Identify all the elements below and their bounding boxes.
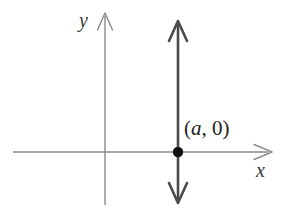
plotted-point-a-0 [173,147,183,157]
y-axis-label: y [79,10,88,30]
point-label-open-paren: ( [184,116,191,140]
x-axis-label: x [256,160,265,180]
point-label-rest: , 0) [202,116,230,140]
graph-canvas [0,0,292,213]
point-label-variable: a [191,116,202,140]
point-coordinate-label: (a, 0) [184,118,230,139]
coordinate-plane-figure: y x (a, 0) [0,0,292,213]
